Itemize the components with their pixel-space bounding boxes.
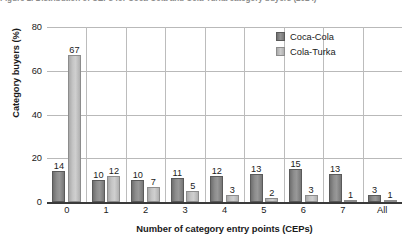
bar-coca-cola-5[interactable]: 13 [250,174,263,202]
figure-caption: Figure 1. Distribution of CEPs for Coca-… [0,0,408,5]
bar-coca-cola-7[interactable]: 13 [329,174,342,202]
bar-cola-turka-0[interactable]: 67 [68,55,81,202]
chart-legend: Coca-ColaCola-Turka [276,29,354,59]
x-axis-category-label: 0 [64,205,69,215]
bar-value-label: 12 [212,166,222,176]
category-separator [126,27,127,202]
bar-value-label: 13 [330,164,340,174]
gridline [47,27,402,28]
bar-value-label: 11 [173,168,183,178]
x-axis-category-label: 5 [261,205,266,215]
bar-value-label: 10 [93,170,103,180]
legend-item-cola-turka[interactable]: Cola-Turka [276,44,354,59]
category-separator [363,27,364,202]
x-axis-category-label: All [377,205,387,215]
bar-coca-cola-0[interactable]: 14 [52,171,65,202]
y-axis-title: Category buyers (%) [11,3,21,143]
x-axis-category-label: 1 [104,205,109,215]
category-separator [86,27,87,202]
gridline [47,115,402,116]
category-separator [165,27,166,202]
bar-value-label: 1 [387,190,392,200]
bar-value-label: 14 [54,161,64,171]
x-axis-category-label: 4 [222,205,227,215]
bar-value-label: 12 [109,166,119,176]
category-separator [205,27,206,202]
y-axis-tick-label: 40 [32,110,42,120]
bar-coca-cola-3[interactable]: 11 [171,178,184,202]
legend-label: Cola-Turka [290,47,336,57]
bar-cola-turka-1[interactable]: 12 [107,176,120,202]
y-axis-tick-label: 0 [37,197,42,207]
legend-swatch-icon [276,32,285,41]
bar-coca-cola-4[interactable]: 12 [210,176,223,202]
x-axis-title: Number of category entry points (CEPs) [47,223,402,234]
bar-value-label: 1 [348,190,353,200]
y-axis-tick-label: 20 [32,153,42,163]
bar-cola-turka-2[interactable]: 7 [147,187,160,202]
gridline [47,71,402,72]
bar-value-label: 5 [190,181,195,191]
bar-cola-turka-3[interactable]: 5 [186,191,199,202]
legend-label: Coca-Cola [290,32,334,42]
y-axis-tick-label: 80 [32,22,42,32]
figure-container: Figure 1. Distribution of CEPs for Coca-… [0,0,408,244]
x-axis-line [47,202,402,204]
x-axis-category-label: 7 [340,205,345,215]
bar-coca-cola-2[interactable]: 10 [131,180,144,202]
bar-value-label: 2 [269,188,274,198]
bar-coca-cola-1[interactable]: 10 [92,180,105,202]
bar-value-label: 3 [309,185,314,195]
x-axis-category-label: 6 [301,205,306,215]
legend-item-coca-cola[interactable]: Coca-Cola [276,29,354,44]
bar-value-label: 15 [291,159,301,169]
bar-value-label: 67 [69,45,79,55]
x-axis-category-label: 3 [182,205,187,215]
legend-swatch-icon [276,47,285,56]
bar-value-label: 10 [133,170,143,180]
bar-value-label: 13 [251,164,261,174]
category-separator [244,27,245,202]
x-axis-category-label: 2 [143,205,148,215]
gridline [47,158,402,159]
bar-coca-cola-6[interactable]: 15 [289,169,302,202]
bar-value-label: 7 [151,177,156,187]
bar-value-label: 3 [372,185,377,195]
y-axis-tick-label: 60 [32,66,42,76]
bar-value-label: 3 [230,185,235,195]
